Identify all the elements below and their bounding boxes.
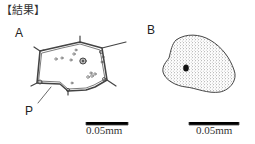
scale-label-a: 0.05mm: [86, 124, 122, 136]
cell-a-drawing: [31, 36, 126, 103]
scale-label-b: 0.05mm: [196, 124, 232, 136]
figure-label-b: B: [147, 23, 155, 37]
diagram-canvas: [0, 0, 255, 144]
cell-b-drawing: [163, 35, 235, 92]
figure-label-a: A: [15, 26, 23, 40]
pointer-label-p: P: [25, 104, 33, 118]
